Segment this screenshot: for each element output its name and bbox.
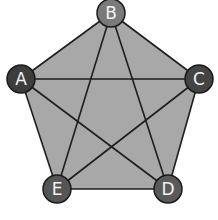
node-label: D (161, 179, 174, 199)
node-A: A (7, 65, 35, 93)
node-label: B (105, 3, 117, 23)
node-label: E (52, 179, 63, 199)
node-label: A (15, 69, 27, 89)
node-B: B (97, 0, 125, 27)
node-D: D (154, 175, 182, 203)
node-C: C (185, 65, 213, 93)
node-E: E (43, 175, 71, 203)
node-label: C (193, 69, 205, 89)
complete-graph-diagram: ABCDE (0, 0, 218, 220)
